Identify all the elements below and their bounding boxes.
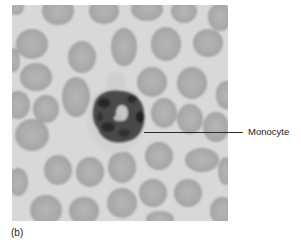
monocyte-label: Monocyte — [248, 126, 289, 138]
panel-label: (b) — [11, 227, 23, 239]
figure-panel-b: Monocyte (b) — [0, 0, 301, 247]
blood-smear-micrograph — [12, 5, 228, 221]
micrograph-illustration — [12, 5, 228, 221]
monocyte-leader-line — [144, 132, 243, 133]
